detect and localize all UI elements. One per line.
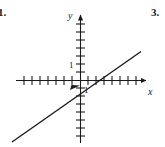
coordinate-plane-graph: y x 1 1 xyxy=(0,0,165,147)
y-axis-label: y xyxy=(67,10,73,21)
x-axis-label: x xyxy=(147,86,153,97)
x-axis-unit-label: 1 xyxy=(84,85,89,95)
figure-container: 1. 3. xyxy=(0,0,165,147)
y-axis-unit-label: 1 xyxy=(69,60,74,70)
y-axis xyxy=(76,15,85,143)
